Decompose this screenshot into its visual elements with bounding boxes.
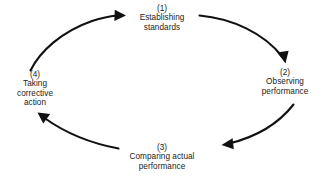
node-number-1: (1) — [112, 4, 212, 13]
node-text-establishing: Establishing — [112, 13, 212, 22]
node-label-comparing-actual-performance: (3) Comparing actual performance — [103, 143, 221, 171]
node-text-taking: Taking — [2, 79, 68, 88]
node-text-performance-3: performance — [103, 162, 221, 171]
arrow-1-to-2 — [200, 16, 289, 64]
node-text-observing: Observing — [246, 77, 324, 86]
arrow-2-to-3 — [222, 105, 294, 150]
node-label-establishing-standards: (1) Establishing standards — [112, 4, 212, 32]
node-number-4: (4) — [2, 70, 68, 79]
node-number-3: (3) — [103, 143, 221, 152]
node-text-comparing-actual: Comparing actual — [103, 152, 221, 161]
node-text-performance: performance — [246, 87, 324, 96]
node-label-taking-corrective-action: (4) Taking corrective action — [2, 70, 68, 108]
cycle-diagram: (1) Establishing standards (2) Observing… — [0, 0, 324, 185]
node-text-standards: standards — [112, 23, 212, 32]
node-number-2: (2) — [246, 68, 324, 77]
node-label-observing-performance: (2) Observing performance — [246, 68, 324, 96]
node-text-corrective: corrective — [2, 89, 68, 98]
node-text-action: action — [2, 98, 68, 107]
